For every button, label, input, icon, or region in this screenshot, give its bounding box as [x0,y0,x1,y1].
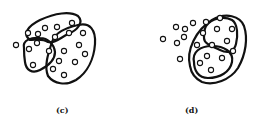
data-point [219,55,224,60]
panel-d-label: (d) [185,105,198,115]
data-point [76,42,81,47]
data-point [181,34,186,39]
data-point [56,58,61,63]
data-point [30,62,35,67]
data-point [217,15,222,20]
data-point [61,72,66,77]
data-point [174,40,179,45]
data-point [34,40,39,45]
panel-d [160,15,246,83]
data-point [66,30,71,35]
data-point [61,48,66,53]
data-point [160,36,165,41]
data-point [173,24,178,29]
data-point [214,26,219,31]
data-point [46,48,51,53]
clustering-diagram [0,0,260,127]
data-point [54,24,59,29]
data-point [52,34,57,39]
data-point [25,30,30,35]
data-point [208,67,213,72]
data-point [26,46,31,51]
data-point [224,38,229,43]
panel-c-label: (c) [56,105,68,115]
data-point [194,42,199,47]
data-point [177,56,182,61]
data-point [13,42,18,47]
data-point [72,59,77,64]
data-point [230,48,235,53]
data-point [204,53,209,58]
data-point [209,42,214,47]
data-point [182,26,187,31]
data-point [197,60,202,65]
data-point [200,30,205,35]
data-point [50,66,55,71]
data-point [42,25,47,30]
data-point [69,20,74,25]
panel-c [13,13,95,83]
data-point [229,26,234,31]
data-point [203,19,208,24]
data-point [80,30,85,35]
data-point [35,31,40,36]
data-point [82,51,87,56]
data-point [190,20,195,25]
